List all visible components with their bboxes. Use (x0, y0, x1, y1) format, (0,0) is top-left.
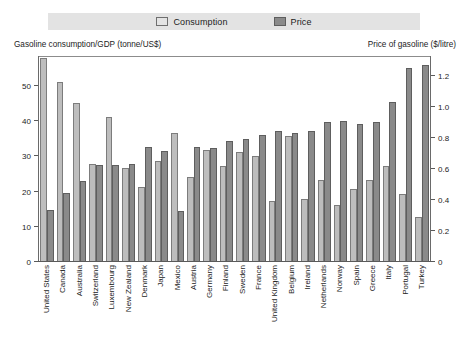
left-axis-tick (34, 120, 38, 121)
right-axis-tick (431, 75, 435, 76)
bar-group[interactable] (153, 56, 169, 261)
category-label: Netherlands (320, 265, 328, 308)
bar-price[interactable] (308, 131, 315, 260)
category-label-slot: New Zealand (120, 264, 136, 340)
bar-group[interactable] (39, 56, 55, 261)
bar-price[interactable] (243, 139, 250, 261)
bar-consumption[interactable] (236, 152, 243, 260)
bar-group[interactable] (365, 56, 381, 261)
bar-price[interactable] (129, 164, 136, 261)
bar-group[interactable] (104, 56, 120, 261)
bar-price[interactable] (226, 141, 233, 261)
bar-price[interactable] (422, 65, 429, 260)
bar-price[interactable] (340, 121, 347, 261)
bar-consumption[interactable] (187, 177, 194, 261)
bar-price[interactable] (63, 193, 70, 261)
category-label-slot: Australia (72, 264, 88, 340)
right-axis-caption: Price of gasoline ($/litre) (368, 40, 456, 49)
bar-price[interactable] (161, 151, 168, 260)
bar-group[interactable] (300, 56, 316, 261)
bar-group[interactable] (283, 56, 299, 261)
bar-price[interactable] (275, 131, 282, 260)
bar-consumption[interactable] (252, 156, 259, 261)
bar-consumption[interactable] (106, 117, 113, 260)
bar-price[interactable] (259, 135, 266, 261)
right-axis-tick (431, 137, 435, 138)
bar-price[interactable] (357, 124, 364, 261)
bar-group[interactable] (169, 56, 185, 261)
bar-consumption[interactable] (415, 217, 422, 261)
bar-consumption[interactable] (301, 199, 308, 260)
left-axis-tick-label: 20 (22, 188, 31, 197)
bar-consumption[interactable] (171, 133, 178, 261)
category-axis-labels: United StatesCanadaAustraliaSwitzerlandL… (39, 264, 430, 340)
bar-price[interactable] (47, 210, 54, 261)
bar-price[interactable] (373, 122, 380, 261)
bar-price[interactable] (406, 68, 413, 260)
bar-group[interactable] (137, 56, 153, 261)
category-label: Italy (385, 265, 393, 280)
bar-consumption[interactable] (220, 166, 227, 260)
bar-price[interactable] (80, 181, 87, 261)
bar-consumption[interactable] (269, 201, 276, 260)
bar-price[interactable] (210, 148, 217, 260)
category-label: Belgium (288, 265, 296, 294)
bar-group[interactable] (349, 56, 365, 261)
bar-group[interactable] (332, 56, 348, 261)
bar-group[interactable] (251, 56, 267, 261)
bar-consumption[interactable] (285, 136, 292, 260)
bar-price[interactable] (194, 147, 201, 261)
category-label-slot: France (251, 264, 267, 340)
right-axis-tick (431, 106, 435, 107)
bar-group[interactable] (72, 56, 88, 261)
right-axis-tick-label: 0.6 (438, 165, 449, 174)
bar-group[interactable] (120, 56, 136, 261)
bar-price[interactable] (178, 211, 185, 260)
bar-group[interactable] (398, 56, 414, 261)
bar-price[interactable] (292, 133, 299, 261)
bar-price[interactable] (389, 102, 396, 261)
bar-consumption[interactable] (203, 150, 210, 260)
right-axis-tick (431, 261, 435, 262)
bar-consumption[interactable] (122, 168, 129, 261)
bar-consumption[interactable] (138, 187, 145, 260)
bar-consumption[interactable] (318, 180, 325, 260)
bar-consumption[interactable] (350, 189, 357, 261)
left-axis-tick-label: 0 (27, 258, 31, 267)
bar-price[interactable] (112, 165, 119, 260)
plot-area: 01020304050 00.20.40.60.81.01.2 (38, 56, 431, 262)
bar-group[interactable] (218, 56, 234, 261)
bar-consumption[interactable] (366, 180, 373, 260)
bar-price[interactable] (145, 147, 152, 261)
bar-consumption[interactable] (383, 166, 390, 260)
bar-consumption[interactable] (40, 58, 47, 261)
category-label-slot: Luxembourg (104, 264, 120, 340)
bar-group[interactable] (186, 56, 202, 261)
category-label: Portugal (402, 265, 410, 295)
bar-group[interactable] (88, 56, 104, 261)
legend-item-consumption[interactable]: Consumption (156, 17, 227, 27)
bar-consumption[interactable] (73, 103, 80, 260)
right-axis-tick-label: 0.4 (438, 196, 449, 205)
bar-group[interactable] (267, 56, 283, 261)
bar-price[interactable] (324, 122, 331, 261)
bar-group[interactable] (235, 56, 251, 261)
bar-group[interactable] (55, 56, 71, 261)
bar-group[interactable] (414, 56, 430, 261)
legend-item-price[interactable]: Price (274, 17, 312, 27)
bar-group[interactable] (381, 56, 397, 261)
bar-consumption[interactable] (399, 194, 406, 260)
bar-group[interactable] (316, 56, 332, 261)
category-label-slot: Italy (381, 264, 397, 340)
category-label-slot: Norway (332, 264, 348, 340)
bar-group[interactable] (202, 56, 218, 261)
bar-consumption[interactable] (57, 82, 64, 260)
category-label-slot: Spain (349, 264, 365, 340)
bar-consumption[interactable] (155, 161, 162, 261)
category-label-slot: Turkey (414, 264, 430, 340)
bar-consumption[interactable] (89, 164, 96, 260)
category-label: Ireland (304, 265, 312, 289)
chart-figure: Consumption Price Gasoline consumption/G… (0, 0, 465, 343)
bar-price[interactable] (96, 165, 103, 260)
bar-consumption[interactable] (334, 205, 341, 261)
